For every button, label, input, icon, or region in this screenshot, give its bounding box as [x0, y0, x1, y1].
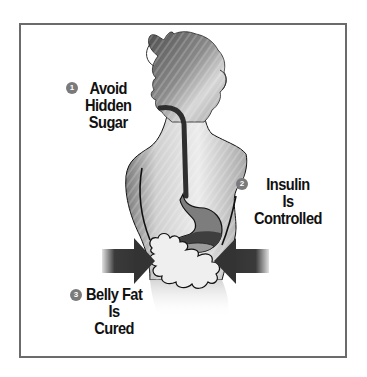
- step-1-line-2: Hidden: [85, 97, 131, 114]
- step-3-label: Belly Fat Is Cured: [86, 286, 142, 337]
- step-3-line-1: Belly Fat: [86, 286, 142, 303]
- step-3-badge: 3: [70, 289, 82, 301]
- step-2-line-3: Controlled: [254, 210, 322, 227]
- step-2-label: Insulin Is Controlled: [254, 176, 322, 227]
- step-2-line-2: Is: [254, 193, 322, 210]
- step-2-line-1: Insulin: [254, 176, 322, 193]
- step-3-line-2: Is: [86, 303, 142, 320]
- step-3-line-3: Cured: [86, 320, 142, 337]
- step-1-line-3: Sugar: [85, 114, 131, 131]
- step-1-badge: 1: [66, 82, 78, 94]
- step-1-line-1: Avoid: [85, 80, 131, 97]
- step-2-badge: 2: [236, 178, 248, 190]
- step-1-label: Avoid Hidden Sugar: [85, 80, 131, 131]
